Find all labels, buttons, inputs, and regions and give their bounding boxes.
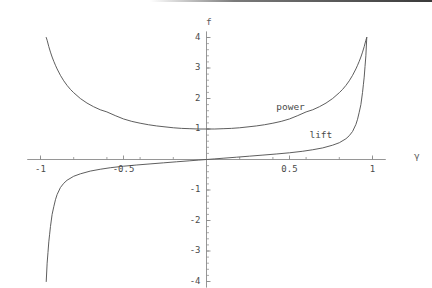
x-tick-label-2: 0.5 <box>281 164 297 174</box>
y-tick-label-1: 3 <box>195 62 200 72</box>
x-tick-label-3: 1 <box>370 164 375 174</box>
series-label-lift: lift <box>309 129 332 140</box>
y-axis-label: f <box>206 16 212 27</box>
x-tick-label-0: -1 <box>35 164 46 174</box>
series-label-power: power <box>276 101 305 112</box>
y-tick-label-0: 4 <box>195 32 200 42</box>
y-tick-label-6: -3 <box>190 245 201 255</box>
plot-root: -1-0.50.514321-1-2-3-4 f γ power lift <box>0 0 432 288</box>
y-tick-label-4: -1 <box>190 184 201 194</box>
y-tick-label-2: 2 <box>195 93 200 103</box>
y-tick-label-5: -2 <box>190 215 201 225</box>
chart-canvas <box>0 0 432 288</box>
y-tick-label-7: -4 <box>190 276 201 286</box>
x-axis-label: γ <box>414 150 420 161</box>
y-tick-label-3: 1 <box>195 123 200 133</box>
x-tick-label-1: -0.5 <box>113 164 135 174</box>
